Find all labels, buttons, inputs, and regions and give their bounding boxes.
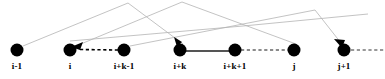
node-i-plus-k[interactable] [174,44,187,57]
node-label-i-minus-1: i-1 [12,61,22,72]
node-label-j: j [292,61,295,72]
node-label-i-plus-k: i+k [174,61,187,72]
node-j[interactable] [288,44,301,57]
node-label-i-plus-k-minus-1: i+k-1 [114,61,135,72]
arrowhead-layer [71,37,345,50]
arc-i-minus-1-to-i-plus-k [23,3,183,46]
node-label-i: i [69,61,72,72]
node-i[interactable] [64,44,77,57]
arc-layer [23,2,368,46]
diagram-canvas [0,0,385,79]
sequence-node-diagram: i-1 i i+k-1 i+k i+k+1 j j+1 [0,0,385,79]
node-i-plus-k-plus-1[interactable] [229,44,242,57]
node-i-plus-k-minus-1[interactable] [118,44,131,57]
node-j-plus-1[interactable] [338,44,351,57]
node-label-j-plus-1: j+1 [338,61,351,72]
node-layer [11,44,351,57]
node-i-minus-1[interactable] [11,44,24,57]
edge-dashed-into-i [79,50,118,51]
node-label-i-plus-k-plus-1: i+k+1 [224,61,247,72]
arc-long-left-to-right [70,14,368,41]
